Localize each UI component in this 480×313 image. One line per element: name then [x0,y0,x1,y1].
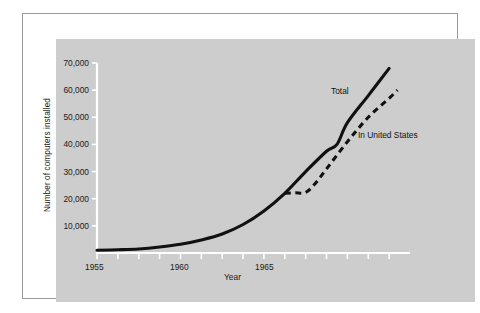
y-tick-label-30000: 30,000 [48,167,89,177]
y-tick-label-40000: 40,000 [48,139,89,149]
y-tick-label-70000: 70,000 [48,58,89,68]
y-tick-label-20000: 20,000 [48,194,89,204]
y-tick-label-60000: 60,000 [48,85,89,95]
chart-canvas [0,0,480,313]
series-annotation-total: Total [331,86,349,96]
x-tick-label-1955: 1955 [85,262,104,272]
x-axis-title: Year [224,272,241,282]
series-annotation-in-united-states: In United States [358,130,418,140]
y-tick-label-10000: 10,000 [48,221,89,231]
x-tick-label-1965: 1965 [255,262,274,272]
x-tick-label-1960: 1960 [170,262,189,272]
axis-lines [97,63,410,253]
y-tick-label-50000: 50,000 [48,112,89,122]
